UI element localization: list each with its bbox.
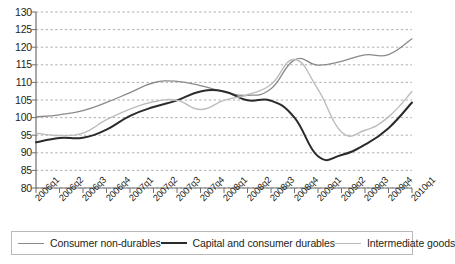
- x-axis-tick-label: 2007q3: [174, 175, 202, 203]
- x-axis-tick-label: 2010q1: [409, 175, 437, 203]
- x-axis-tick-label: 2007q1: [127, 175, 155, 203]
- legend-item-label: Intermediate goods: [367, 237, 455, 249]
- x-axis-tick-label: 2006q2: [57, 175, 85, 203]
- x-axis-tick-label: 2008q3: [268, 175, 296, 203]
- x-axis-tick-label: 2008q4: [292, 175, 320, 203]
- legend-swatch-line-icon: [335, 243, 361, 244]
- legend-item[interactable]: Capital and consumer durables: [161, 237, 335, 249]
- x-axis-tick-label: 2009q1: [315, 175, 343, 203]
- x-axis-tick-label: 2006q3: [80, 175, 108, 203]
- x-axis-tick-label: 2006q1: [33, 175, 61, 203]
- x-axis-tick-label: 2009q2: [339, 175, 367, 203]
- legend-item-label: Capital and consumer durables: [193, 237, 335, 249]
- x-axis-tick-label: 2006q4: [104, 175, 132, 203]
- x-axis-tick-label: 2007q4: [198, 175, 226, 203]
- x-axis-tick-label: 2009q4: [386, 175, 414, 203]
- legend-swatch-line-icon: [18, 243, 44, 244]
- legend-item[interactable]: Intermediate goods: [335, 237, 455, 249]
- x-axis-tick-label: 2008q1: [221, 175, 249, 203]
- x-axis-tick-label: 2009q3: [362, 175, 390, 203]
- legend-item-label: Consumer non-durables: [50, 237, 161, 249]
- chart-legend: Consumer non-durablesCapital and consume…: [11, 231, 413, 255]
- legend-item[interactable]: Consumer non-durables: [18, 237, 161, 249]
- x-axis-tick-label: 2007q2: [151, 175, 179, 203]
- x-axis-tick-label: 2008q2: [245, 175, 273, 203]
- legend-swatch-line-icon: [161, 242, 187, 244]
